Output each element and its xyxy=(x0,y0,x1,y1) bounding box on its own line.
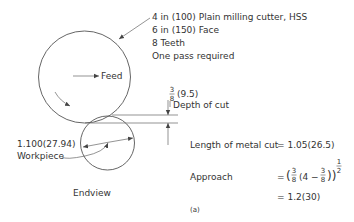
depth-metric: (9.5) xyxy=(177,89,198,99)
diameter-arrow-left xyxy=(83,143,107,148)
approach-open-paren: ( xyxy=(286,169,291,183)
frac1-den: 8 xyxy=(292,176,296,184)
depth-fraction-num: 3 xyxy=(170,86,174,94)
figure-label: (a) xyxy=(190,206,200,214)
workpiece-label: Workpiece xyxy=(17,151,64,161)
exponent-den: 2 xyxy=(337,167,341,175)
workpiece-circle xyxy=(81,116,135,170)
approach-result: = 1.2(30) xyxy=(277,192,320,202)
feed-label: Feed xyxy=(101,71,122,81)
frac1-num: 3 xyxy=(292,167,296,175)
frac2-den: 8 xyxy=(321,176,325,184)
approach-equals: = xyxy=(277,172,285,182)
length-value: = 1.05(26.5) xyxy=(277,140,335,150)
exponent-num: 1 xyxy=(337,158,341,166)
cutter-spec-line-2: 6 in (150) Face xyxy=(152,25,220,35)
approach-close-parens: )) xyxy=(327,169,336,183)
cutter-spec-line-3: 8 Teeth xyxy=(152,38,185,48)
workpiece-diameter: 1.100(27.94) xyxy=(17,139,76,149)
milling-diagram: Feed 3 8 (9.5) Depth of cut 1.100(27.94)… xyxy=(0,0,354,222)
cutter-leader-arrow xyxy=(119,18,150,39)
frac2-num: 3 xyxy=(321,167,325,175)
length-label: Length of metal cut xyxy=(190,140,279,150)
approach-label: Approach xyxy=(190,172,233,182)
depth-label: Depth of cut xyxy=(173,100,229,110)
cutter-spec-line-4: One pass required xyxy=(152,51,234,61)
diameter-arrow-right xyxy=(107,138,133,143)
rotation-arrow xyxy=(55,92,70,106)
cutter-spec-line-1: 4 in (100) Plain milling cutter, HSS xyxy=(152,12,307,22)
endview-label: Endview xyxy=(73,188,111,198)
approach-inner-open: (4 − xyxy=(299,172,319,182)
